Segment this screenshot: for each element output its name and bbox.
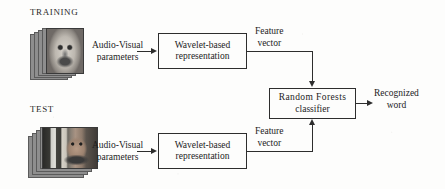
frame-sheet-top xyxy=(42,127,98,169)
block-label-line2: representation xyxy=(176,151,230,163)
block-label-line2: representation xyxy=(176,51,230,63)
training-frame-stack-icon xyxy=(30,28,86,80)
edge-label-line1: Feature xyxy=(255,126,284,138)
connector-test-feature-vertical xyxy=(312,125,313,152)
connector-test-feature-horizontal xyxy=(247,151,313,152)
edge-label-recognized-word: Recognized word xyxy=(374,88,419,111)
arrowhead-right-icon xyxy=(151,148,157,154)
pipeline-diagram: TRAINING Audio-Visual parameters Wavelet… xyxy=(0,0,445,189)
connector-training-feature-vertical xyxy=(312,51,313,82)
edge-label-line2: vector xyxy=(255,138,284,150)
block-random-forests-classifier: Random Forests classifier xyxy=(269,88,356,119)
face-thumbnail xyxy=(47,29,83,73)
edge-label-line1: Recognized xyxy=(374,88,419,100)
arrowhead-right-icon xyxy=(367,100,373,106)
arrowhead-down-icon xyxy=(309,81,315,87)
arrowhead-up-icon xyxy=(309,119,315,125)
training-section-label: TRAINING xyxy=(30,7,78,17)
block-wavelet-representation-training: Wavelet-based representation xyxy=(158,33,247,69)
edge-label-audio-visual-test: Audio-Visual parameters xyxy=(92,140,143,163)
edge-label-line1: Audio-Visual xyxy=(92,40,143,52)
block-wavelet-representation-test: Wavelet-based representation xyxy=(158,133,247,169)
connector-training-feature-horizontal xyxy=(247,51,313,52)
block-label-line1: Wavelet-based xyxy=(175,40,231,52)
block-label-line1: Random Forests xyxy=(279,92,347,104)
edge-label-line2: parameters xyxy=(92,52,143,64)
arrowhead-right-icon xyxy=(151,48,157,54)
test-frame-stack-icon xyxy=(28,127,98,179)
block-label-line1: Wavelet-based xyxy=(175,140,231,152)
block-label-line2: classifier xyxy=(295,104,329,116)
edge-label-feature-vector-training: Feature vector xyxy=(255,26,284,49)
edge-label-line2: word xyxy=(374,100,419,112)
edge-label-line1: Feature xyxy=(255,26,284,38)
frame-sheet-top xyxy=(46,28,84,74)
edge-label-line2: parameters xyxy=(92,152,143,164)
edge-label-line1: Audio-Visual xyxy=(92,140,143,152)
speaker-thumbnail xyxy=(43,128,97,168)
edge-label-feature-vector-test: Feature vector xyxy=(255,126,284,149)
test-section-label: TEST xyxy=(30,104,54,114)
edge-label-line2: vector xyxy=(255,38,284,50)
edge-label-audio-visual-training: Audio-Visual parameters xyxy=(92,40,143,63)
